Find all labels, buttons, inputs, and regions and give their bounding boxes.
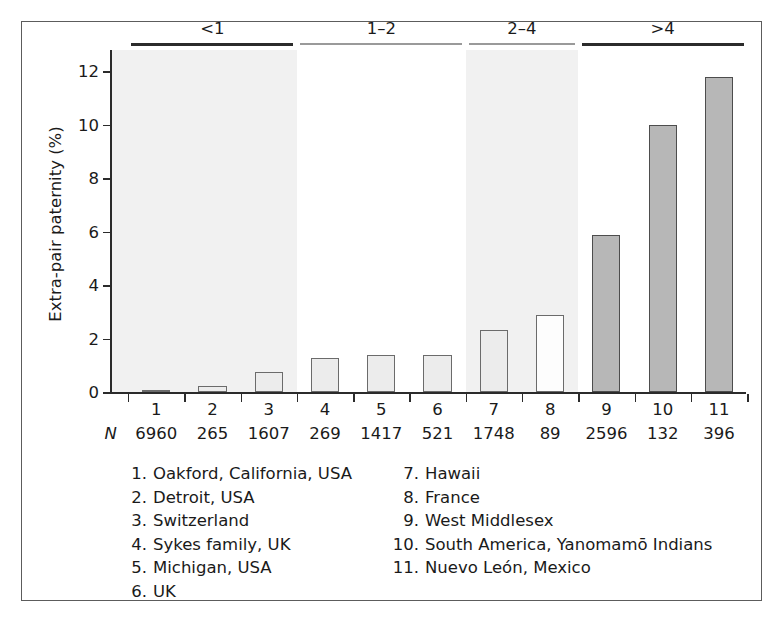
y-tick-4 (103, 285, 110, 286)
n-value-6: 521 (422, 424, 454, 443)
n-value-8: 89 (540, 424, 561, 443)
x-index-label-11: 11 (708, 400, 729, 419)
x-tick-7 (522, 394, 523, 402)
y-tick-label-10: 10 (78, 115, 99, 134)
x-index-label-3: 3 (263, 400, 274, 419)
y-tick-0 (103, 392, 110, 393)
legend-entry-text: Hawaii (425, 462, 480, 486)
x-tick-4 (353, 394, 354, 402)
group-label-<1: <1 (200, 19, 224, 38)
y-axis-title: Extra-pair paternity (%) (46, 52, 65, 396)
n-symbol-label: N (104, 424, 116, 443)
legend-entry-number: 11. (389, 556, 419, 580)
x-tick-3 (297, 394, 298, 402)
y-tick-8 (103, 178, 110, 179)
legend-entry-text: Sykes family, UK (153, 533, 291, 557)
group-line-<1 (131, 43, 293, 46)
x-index-label-4: 4 (320, 400, 331, 419)
y-tick-12 (103, 71, 110, 72)
n-value-9: 2596 (585, 424, 627, 443)
legend-entry-9: 9.West Middlesex (389, 509, 737, 533)
n-value-5: 1417 (360, 424, 402, 443)
legend-entry-number: 3. (117, 509, 147, 533)
n-value-2: 265 (197, 424, 229, 443)
legend-entry-11: 11.Nuevo León, Mexico (389, 556, 737, 580)
legend-entry-text: West Middlesex (425, 509, 554, 533)
legend-entry-number: 10. (389, 533, 419, 557)
y-tick-label-4: 4 (89, 276, 100, 295)
n-value-7: 1748 (473, 424, 515, 443)
x-axis-line (110, 392, 746, 394)
legend-entry-6: 6.UK (117, 580, 389, 604)
legend-entry-text: Detroit, USA (153, 486, 255, 510)
x-index-label-6: 6 (432, 400, 443, 419)
legend-entry-10: 10.South America, Yanomamō Indians (389, 533, 737, 557)
legend-column-right: 7.Hawaii8.France9.West Middlesex10.South… (389, 462, 737, 603)
group-label-1–2: 1–2 (367, 19, 396, 38)
legend-entry-text: Michigan, USA (153, 556, 272, 580)
bar-5 (367, 355, 395, 392)
legend-entry-number: 2. (117, 486, 147, 510)
legend-entry-8: 8.France (389, 486, 737, 510)
legend-entry-text: UK (153, 580, 176, 604)
x-tick-9 (635, 394, 636, 402)
legend-entry-3: 3.Switzerland (117, 509, 389, 533)
x-tick-8 (578, 394, 579, 402)
legend: 1.Oakford, California, USA2.Detroit, USA… (117, 462, 737, 603)
bar-11 (705, 77, 733, 393)
legend-entry-number: 7. (389, 462, 419, 486)
background-band-1-2 (297, 50, 466, 394)
y-tick-label-6: 6 (89, 222, 100, 241)
y-tick-label-8: 8 (89, 169, 100, 188)
n-value-11: 396 (703, 424, 735, 443)
x-index-label-9: 9 (601, 400, 612, 419)
x-tick-0 (128, 394, 129, 402)
legend-entry-text: France (425, 486, 480, 510)
legend-entry-1: 1.Oakford, California, USA (117, 462, 389, 486)
x-index-label-10: 10 (652, 400, 673, 419)
legend-entry-number: 8. (389, 486, 419, 510)
legend-entry-7: 7.Hawaii (389, 462, 737, 486)
y-tick-2 (103, 339, 110, 340)
group-label-2–4: 2–4 (507, 19, 536, 38)
y-tick-label-0: 0 (89, 383, 100, 402)
x-tick-2 (241, 394, 242, 402)
bar-2 (198, 386, 226, 393)
legend-entry-number: 4. (117, 533, 147, 557)
bar-10 (649, 125, 677, 393)
y-tick-label-12: 12 (78, 62, 99, 81)
x-tick-1 (184, 394, 185, 402)
x-index-label-8: 8 (545, 400, 556, 419)
legend-entry-number: 9. (389, 509, 419, 533)
legend-entry-text: Switzerland (153, 509, 249, 533)
legend-entry-5: 5.Michigan, USA (117, 556, 389, 580)
x-index-label-5: 5 (376, 400, 387, 419)
figure-frame: 024681012 Extra-pair paternity (%) <11–2… (21, 21, 762, 601)
x-index-label-2: 2 (207, 400, 218, 419)
y-tick-6 (103, 232, 110, 233)
legend-entry-number: 5. (117, 556, 147, 580)
background-band--1 (112, 50, 297, 394)
y-axis-line (110, 50, 112, 394)
group-label->4: >4 (651, 19, 675, 38)
bar-8 (536, 315, 564, 393)
legend-entry-2: 2.Detroit, USA (117, 486, 389, 510)
n-value-10: 132 (647, 424, 679, 443)
legend-column-left: 1.Oakford, California, USA2.Detroit, USA… (117, 462, 389, 603)
legend-entry-text: South America, Yanomamō Indians (425, 533, 712, 557)
group-line->4 (582, 43, 744, 46)
x-index-label-7: 7 (489, 400, 500, 419)
bar-7 (480, 330, 508, 393)
y-tick-10 (103, 125, 110, 126)
n-value-3: 1607 (248, 424, 290, 443)
x-tick-5 (409, 394, 410, 402)
legend-entry-number: 1. (117, 462, 147, 486)
bar-3 (255, 372, 283, 392)
bar-4 (311, 358, 339, 393)
x-index-label-1: 1 (151, 400, 162, 419)
group-line-1–2 (300, 43, 462, 45)
bar-9 (592, 235, 620, 393)
x-tick-10 (691, 394, 692, 402)
legend-entry-4: 4.Sykes family, UK (117, 533, 389, 557)
n-value-4: 269 (309, 424, 341, 443)
